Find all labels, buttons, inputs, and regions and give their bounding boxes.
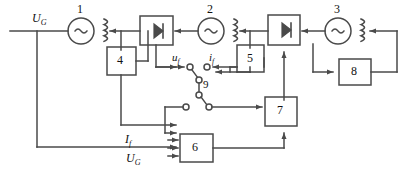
label-machine-1: 1 [77, 3, 83, 15]
converter-left[interactable] [140, 16, 173, 45]
machine-1-field-coil [104, 19, 108, 41]
label-if-current: If [125, 133, 131, 149]
conn-block4-right-branch [136, 31, 148, 61]
machine-2-field-coil [234, 19, 238, 41]
label-machine-3: 3 [334, 3, 340, 15]
label-ug-top: UG [32, 12, 47, 28]
label-block-7: 7 [277, 104, 283, 116]
machine-2-symbol [198, 18, 224, 44]
machine-3-field-coil [361, 19, 365, 41]
diagram-canvas: UG If UG uf if 1 2 3 4 5 6 7 8 9 [0, 0, 407, 178]
label-block-4: 4 [117, 54, 123, 66]
machine-1-symbol [68, 18, 94, 44]
label-if: if [209, 52, 214, 66]
converter-right[interactable] [268, 15, 300, 45]
block6-inputs [168, 140, 178, 156]
ug-bus-line [10, 31, 176, 147]
conn-block4-down [121, 75, 176, 125]
conn-block6-to-block7 [213, 133, 284, 148]
conn-if-input [213, 58, 264, 72]
machine-3-symbol [325, 18, 351, 44]
label-machine-2: 2 [207, 3, 213, 15]
conn-switch-to-block6 [165, 107, 183, 133]
label-block-8: 8 [351, 65, 357, 77]
label-block-6: 6 [192, 141, 198, 153]
label-ug-bottom: UG [126, 152, 141, 168]
label-block-5: 5 [247, 52, 253, 64]
label-switch-9: 9 [203, 79, 209, 90]
label-uf: uf [172, 52, 180, 66]
